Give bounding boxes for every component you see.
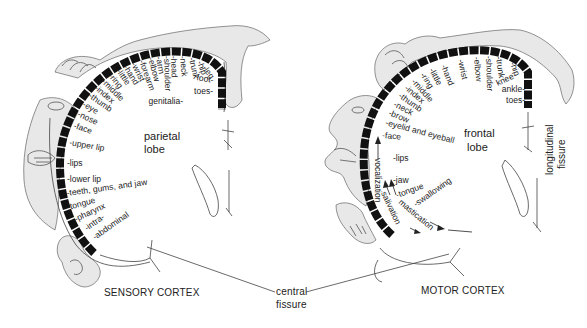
sensory-body-part-labels: genitalia-toes-foot--leg-hip-trunk-neck-… — [66, 55, 217, 241]
frontal-lobe-label: frontal — [464, 127, 495, 139]
motor-cortex-panel: toes-ankle-knee--hip-trunk-shoulder-elbo… — [325, 30, 574, 296]
motor-body-part-label: -wrist — [456, 58, 470, 81]
central-fissure-callout: central fissure — [147, 247, 449, 310]
motor-body-part-label: -face — [382, 130, 402, 142]
sensory-cortex-title: SENSORY CORTEX — [104, 287, 200, 298]
svg-text:longitudinal: longitudinal — [544, 124, 555, 175]
motor-body-part-label: -jaw — [393, 175, 409, 185]
motor-body-part-label: -shoulder — [484, 56, 495, 92]
motor-body-part-label: ankle- — [502, 84, 525, 94]
sensory-body-part-label: -lower lip — [67, 174, 101, 184]
homunculus-diagram: genitalia-toes-foot--leg-hip-trunk-neck-… — [0, 0, 587, 328]
svg-text:fissure: fissure — [556, 139, 567, 169]
central-fissure-label: central — [276, 286, 307, 297]
parietal-lobe-label-2: lobe — [144, 143, 165, 155]
motor-cortex-title: MOTOR CORTEX — [421, 285, 505, 296]
motor-body-part-label: -lips — [393, 153, 409, 163]
sensory-body-part-label: toes- — [194, 86, 213, 96]
motor-body-part-label: -elbow — [472, 56, 484, 83]
parietal-lobe-label: parietal — [144, 130, 180, 142]
motor-body-part-label: -trunk — [494, 56, 507, 80]
sensory-body-part-label: -lips — [67, 158, 83, 168]
sensory-body-part-label: -upper lip — [69, 137, 106, 153]
sensory-cortex-panel: genitalia-toes-foot--leg-hip-trunk-neck-… — [24, 26, 270, 298]
central-fissure-label-2: fissure — [276, 299, 307, 310]
frontal-lobe-label-2: lobe — [467, 141, 488, 153]
motor-body-part-label: toes- — [506, 95, 525, 105]
sensory-body-part-label: genitalia- — [149, 96, 184, 106]
longitudinal-fissure-label: longitudinal fissure — [544, 124, 567, 175]
